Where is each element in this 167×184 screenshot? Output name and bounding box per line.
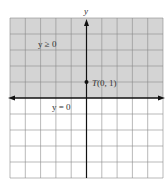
test-point-marker <box>85 80 89 84</box>
test-point-coords: (0, 1) <box>97 78 117 88</box>
graph-canvas: y y ≥ 0 y = 0 T(0, 1) <box>0 0 167 184</box>
y-axis-label: y <box>83 6 88 16</box>
boundary-label: y = 0 <box>52 102 71 112</box>
region-label: y ≥ 0 <box>38 39 57 49</box>
test-point-label: T(0, 1) <box>92 78 117 88</box>
